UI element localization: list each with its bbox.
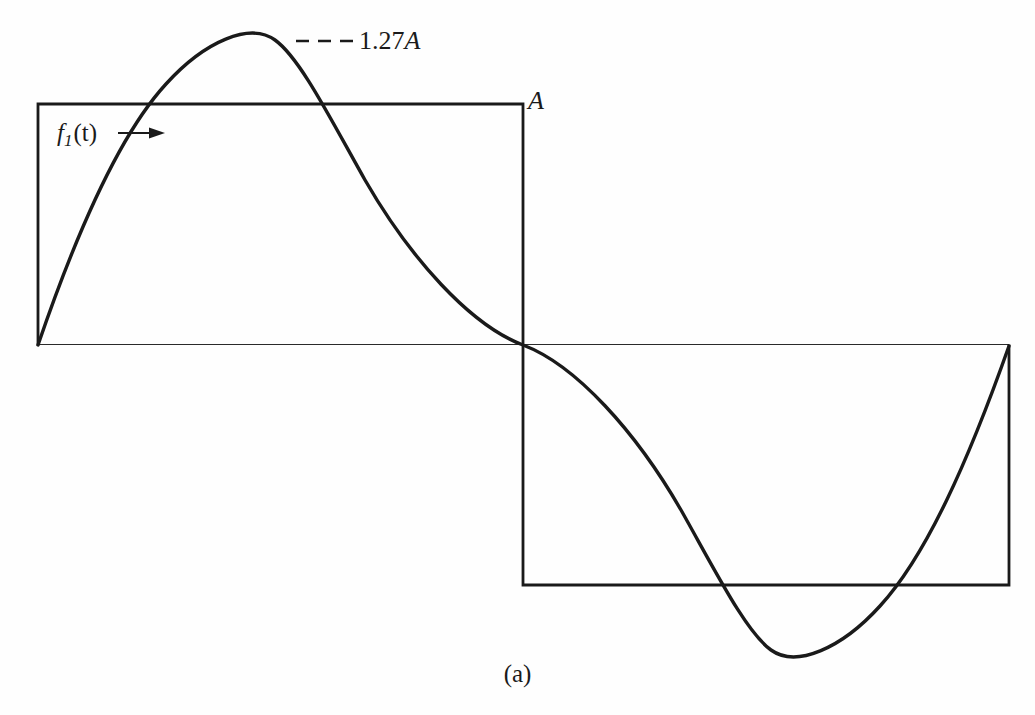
square-wave-positive-half <box>38 104 523 344</box>
waveform-plot <box>0 0 1035 715</box>
figure-container: 1.27A A f1(t) (a) <box>0 0 1035 715</box>
function-argument: (t) <box>73 119 97 146</box>
amplitude-label: A <box>528 86 544 116</box>
peak-value-unit: A <box>405 26 421 55</box>
function-label-arrow-head <box>149 128 165 139</box>
function-name: f <box>57 119 64 146</box>
figure-caption: (a) <box>0 660 1035 688</box>
square-wave-negative-half <box>523 346 1009 585</box>
function-subscript: 1 <box>64 131 73 150</box>
peak-value-label: 1.27A <box>359 26 420 56</box>
peak-value-number: 1.27 <box>359 26 405 55</box>
function-label: f1(t) <box>57 119 97 151</box>
